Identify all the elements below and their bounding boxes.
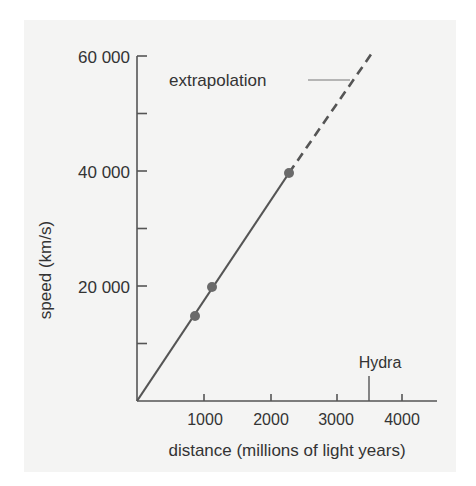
hubble-chart: 60 000 40 000 20 000 1000 2000 3000 4000… (0, 0, 476, 486)
extrapolation-label: extrapolation (169, 71, 266, 90)
x-tick-label: 2000 (253, 411, 289, 428)
data-point (284, 168, 294, 178)
x-tick-label: 3000 (318, 411, 354, 428)
extrapolation-line (289, 53, 372, 173)
data-point (207, 282, 217, 292)
y-tick-label: 20 000 (78, 278, 130, 297)
hydra-label: Hydra (359, 354, 402, 371)
y-axis-label: speed (km/s) (36, 221, 55, 319)
y-tick-label: 60 000 (78, 48, 130, 67)
x-axis-label: distance (millions of light years) (168, 441, 405, 460)
x-tick-label: 1000 (187, 411, 223, 428)
data-point (190, 311, 200, 321)
y-tick-label: 40 000 (78, 163, 130, 182)
axes (137, 56, 437, 401)
x-tick-label: 4000 (384, 411, 420, 428)
